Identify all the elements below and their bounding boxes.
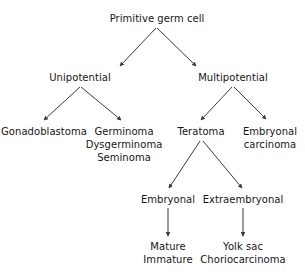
node-teratoma: Teratoma	[177, 125, 224, 138]
edge-primitive-to-unipotential	[120, 28, 156, 66]
node-line: Unipotential	[49, 71, 111, 84]
edge-unipotential-to-germinoma	[81, 87, 121, 120]
edge-unipotential-to-gonadoblastoma	[44, 87, 80, 120]
edge-teratoma-to-extraembryonal	[203, 141, 242, 188]
node-line: carcinoma	[243, 138, 297, 151]
node-line: Gonadoblastoma	[1, 125, 87, 138]
node-line: Primitive germ cell	[110, 12, 205, 25]
edge-teratoma-to-embryonal	[169, 141, 200, 188]
germ-cell-tumor-classification-diagram: Primitive germ cell Unipotential Multipo…	[0, 0, 305, 272]
node-line: Yolk sac	[200, 240, 285, 253]
node-embryonal-carcinoma: Embryonal carcinoma	[243, 125, 297, 151]
node-line: Immature	[143, 253, 192, 266]
node-mature-immature: Mature Immature	[143, 240, 192, 266]
node-line: Teratoma	[177, 125, 224, 138]
node-line: Embryonal	[243, 125, 297, 138]
node-embryonal: Embryonal	[141, 193, 195, 206]
edge-primitive-to-multipotential	[157, 28, 196, 66]
node-line: Extraembryonal	[203, 193, 284, 206]
edge-multipotential-to-embryonal-carcinoma	[234, 87, 266, 119]
node-line: Dysgerminoma	[86, 138, 163, 151]
node-yolk-sac-group: Yolk sac Choriocarcinoma	[200, 240, 285, 266]
edge-multipotential-to-teratoma	[201, 87, 232, 120]
node-line: Embryonal	[141, 193, 195, 206]
node-multipotential: Multipotential	[198, 71, 268, 84]
node-primitive-germ-cell: Primitive germ cell	[110, 12, 205, 25]
node-germinoma-group: Germinoma Dysgerminoma Seminoma	[86, 125, 163, 164]
node-line: Seminoma	[86, 151, 163, 164]
node-gonadoblastoma: Gonadoblastoma	[1, 125, 87, 138]
node-line: Multipotential	[198, 71, 268, 84]
node-line: Mature	[143, 240, 192, 253]
node-line: Germinoma	[86, 125, 163, 138]
node-line: Choriocarcinoma	[200, 253, 285, 266]
node-unipotential: Unipotential	[49, 71, 111, 84]
node-extraembryonal: Extraembryonal	[203, 193, 284, 206]
